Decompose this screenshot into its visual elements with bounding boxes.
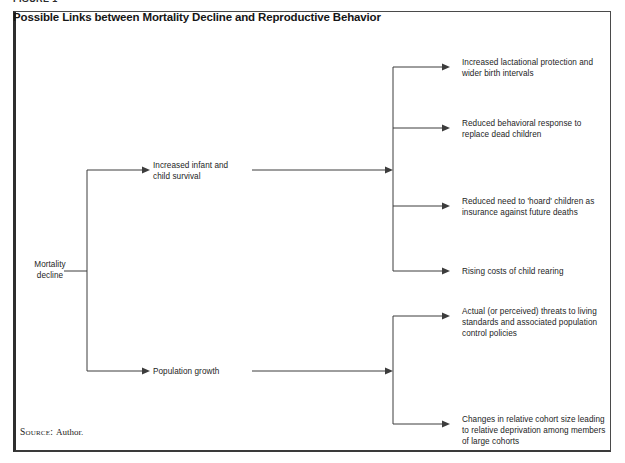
source-note: Source:Author. (20, 427, 83, 437)
node-increased-child-survival: Increased infant andchild survival (153, 160, 258, 182)
figure-title: Possible Links between Mortality Decline… (13, 11, 381, 23)
node-cohort-size-changes: Changes in relative cohort size leadingt… (462, 414, 614, 447)
node-population-growth: Population growth (153, 366, 263, 377)
figure-number-label: FIGURE 1 (13, 0, 58, 4)
node-child-rearing-costs: Rising costs of child rearing (462, 266, 612, 277)
source-value: Author. (56, 427, 83, 437)
node-behavioral-response: Reduced behavioral response toreplace de… (462, 118, 612, 140)
node-living-standards-threats: Actual (or perceived) threats to livings… (462, 306, 614, 339)
node-mortality-decline: Mortalitydecline (19, 259, 81, 281)
node-lactational-protection: Increased lactational protection andwide… (462, 57, 612, 79)
node-hoard-children: Reduced need to 'hoard' children asinsur… (462, 196, 612, 218)
source-label: Source: (20, 427, 53, 437)
